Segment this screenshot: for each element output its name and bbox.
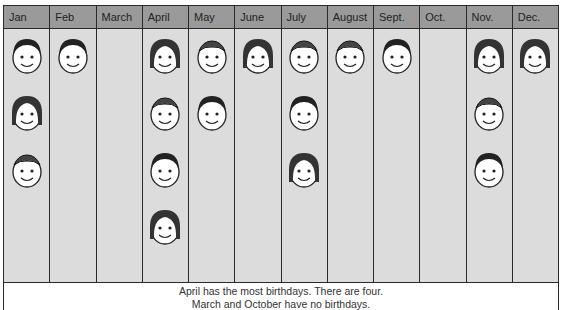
month-header: Feb: [50, 5, 95, 29]
child-face-icon: [285, 150, 323, 192]
month-header: March: [97, 5, 142, 29]
month-cells: [282, 30, 327, 283]
month-column-dec: Dec.: [513, 5, 558, 283]
child-face-icon: [470, 36, 508, 78]
month-header: April: [143, 5, 188, 29]
child-face-icon: [193, 93, 231, 135]
month-cells: [374, 30, 419, 283]
month-cells: [189, 30, 234, 283]
month-header: Oct.: [420, 5, 465, 29]
month-cells: [50, 30, 95, 283]
child-face-icon: [193, 36, 231, 78]
month-cells: [513, 30, 558, 283]
child-face-icon: [378, 36, 416, 78]
child-face-icon: [146, 150, 184, 192]
month-column-august: August: [328, 5, 374, 283]
month-column-feb: Feb: [50, 5, 96, 283]
month-header: Jan: [4, 5, 49, 29]
child-face-icon: [8, 150, 46, 192]
month-header: Nov.: [467, 5, 512, 29]
month-cells: [4, 30, 49, 283]
month-column-april: April: [143, 5, 189, 283]
month-cells: [328, 30, 373, 283]
child-face-icon: [470, 150, 508, 192]
month-header: Dec.: [513, 5, 558, 29]
caption: April has the most birthdays. There are …: [4, 285, 558, 310]
month-column-july: July: [282, 5, 328, 283]
caption-line-1: April has the most birthdays. There are …: [4, 285, 558, 298]
month-header: June: [235, 5, 280, 29]
child-face-icon: [146, 93, 184, 135]
month-header: May: [189, 5, 234, 29]
child-face-icon: [146, 207, 184, 249]
child-face-icon: [516, 36, 554, 78]
month-column-june: June: [235, 5, 281, 283]
caption-line-2: March and October have no birthdays.: [4, 298, 558, 310]
month-header: July: [282, 5, 327, 29]
month-cells: [97, 30, 142, 283]
child-face-icon: [8, 93, 46, 135]
child-face-icon: [146, 36, 184, 78]
month-column-sept: Sept.: [374, 5, 420, 283]
birthday-pictograph: JanFebMarchAprilMayJuneJulyAugustSept.Oc…: [3, 5, 559, 310]
child-face-icon: [470, 93, 508, 135]
month-cells: [235, 30, 280, 283]
child-face-icon: [239, 36, 277, 78]
child-face-icon: [54, 36, 92, 78]
child-face-icon: [331, 36, 369, 78]
child-face-icon: [285, 36, 323, 78]
child-face-icon: [285, 93, 323, 135]
month-cells: [420, 30, 465, 283]
month-header: Sept.: [374, 5, 419, 29]
month-column-jan: Jan: [4, 5, 50, 283]
month-columns: JanFebMarchAprilMayJuneJulyAugustSept.Oc…: [4, 5, 558, 283]
month-header: August: [328, 5, 373, 29]
month-cells: [143, 30, 188, 283]
month-column-nov: Nov.: [467, 5, 513, 283]
month-column-oct: Oct.: [420, 5, 466, 283]
month-column-may: May: [189, 5, 235, 283]
month-cells: [467, 30, 512, 283]
month-column-march: March: [97, 5, 143, 283]
child-face-icon: [8, 36, 46, 78]
